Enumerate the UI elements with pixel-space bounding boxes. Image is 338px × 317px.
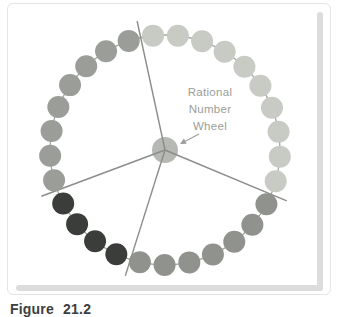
wheel-dot-lower-right-gray bbox=[241, 214, 263, 236]
wheel-dot-upper-right-light bbox=[261, 97, 283, 119]
wheel-label: Rational Number Wheel bbox=[167, 84, 253, 135]
wheel-dot-lower-right-gray bbox=[178, 251, 200, 273]
wheel-dot-upper-left-gray bbox=[95, 40, 117, 62]
wheel-dot-upper-left-gray bbox=[59, 74, 81, 96]
wheel-dot-upper-right-light bbox=[233, 56, 255, 78]
wheel-dot-upper-right-light bbox=[214, 41, 236, 63]
wheel-dot-upper-left-gray bbox=[75, 55, 97, 77]
wheel-dot-upper-right-light bbox=[265, 170, 287, 192]
wheel-dot-upper-left-gray bbox=[43, 169, 65, 191]
wheel-dot-lower-right-gray bbox=[223, 231, 245, 253]
wheel-dot-lower-left-dark bbox=[84, 230, 106, 252]
wheel-dot-lower-left-dark bbox=[52, 192, 74, 214]
wheel-dot-upper-left-gray bbox=[47, 96, 69, 118]
wheel-dot-upper-right-light bbox=[142, 25, 164, 47]
wheel-label-line2: Number bbox=[167, 101, 253, 118]
wheel-dot-lower-right-gray bbox=[154, 254, 176, 276]
wheel-dot-lower-left-dark bbox=[105, 243, 127, 265]
figure-caption: Figure 21.2 bbox=[10, 302, 91, 316]
wheel-label-line3: Wheel bbox=[167, 118, 253, 135]
wheel-dot-upper-left-gray bbox=[41, 120, 63, 142]
wheel-dot-upper-left-gray bbox=[118, 30, 140, 52]
wheel-dot-upper-right-light bbox=[167, 25, 189, 47]
wheel-label-line1: Rational bbox=[167, 84, 253, 101]
wheel-dot-lower-left-dark bbox=[66, 213, 88, 235]
wheel-dot-lower-right-gray bbox=[129, 251, 151, 273]
wheel-dot-upper-right-light bbox=[268, 121, 290, 143]
label-arrow-line bbox=[185, 134, 199, 141]
wheel-dot-upper-right-light bbox=[269, 146, 291, 168]
wheel-dot-lower-right-gray bbox=[202, 244, 224, 266]
wheel-dot-upper-left-gray bbox=[39, 145, 61, 167]
wheel-dot-lower-right-gray bbox=[255, 193, 277, 215]
wheel-dot-upper-right-light bbox=[191, 30, 213, 52]
